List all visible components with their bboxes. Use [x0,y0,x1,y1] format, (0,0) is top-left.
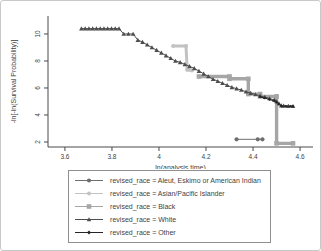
data-marker [150,45,155,49]
data-marker [274,94,279,99]
data-marker [234,137,238,141]
data-marker [168,56,173,60]
data-marker [145,42,150,46]
x-tick-label: 4 [157,153,161,160]
data-marker [164,53,169,57]
x-tick-label: 4.4 [249,153,258,160]
data-marker [173,59,178,63]
y-axis-title: -ln[-ln(Survival Probability)] [10,40,18,124]
legend-label: revised_race = Other [110,229,176,236]
circle-marker-icon [74,176,104,185]
data-marker [171,44,175,48]
x-tick-label: 4.2 [201,153,210,160]
legend-marker [87,192,91,196]
data-marker [184,44,188,48]
legend-item: revised_race = White [74,213,261,226]
data-marker [291,141,296,146]
y-tick-label: 8 [34,59,41,63]
data-marker [256,137,260,141]
x-axis-title: ln(analysis time) [155,164,206,170]
triangle-marker-icon [74,215,104,224]
survival-plot-figure: 3.63.844.24.44.6246810ln(analysis time)-… [0,0,321,251]
x-tick-label: 3.6 [60,153,69,160]
circle-marker-icon [74,189,104,198]
legend-label: revised_race = Aleut, Eskimo or American… [110,177,261,184]
data-marker [185,68,189,72]
legend-item: revised_race = Asian/Pacific Islander [74,187,261,200]
legend-marker [87,178,91,182]
data-marker [260,137,264,141]
legend: revised_race = Aleut, Eskimo or American… [68,170,271,243]
data-marker [197,74,202,79]
legend-label: revised_race = White [110,216,176,223]
y-tick-label: 6 [34,86,41,90]
series-line-2 [199,77,293,144]
x-tick-label: 3.8 [107,153,116,160]
square-marker-icon [74,202,104,211]
data-marker [274,141,279,146]
legend-marker [87,204,92,209]
legend-label: revised_race = Black [110,203,175,210]
data-marker [201,72,206,76]
data-marker [227,76,232,81]
legend-item: revised_race = Other [74,226,261,239]
data-marker [154,48,159,52]
x-tick-label: 4.6 [296,153,305,160]
legend-item: revised_race = Black [74,200,261,213]
diamond-marker-icon [74,228,104,237]
data-marker [197,69,202,73]
y-tick-label: 4 [34,113,41,117]
data-marker [246,76,251,81]
y-tick-label: 10 [34,30,41,38]
y-tick-label: 2 [34,140,41,144]
legend-marker [87,231,91,235]
legend-item: revised_race = Aleut, Eskimo or American… [74,174,261,187]
plot-area: 3.63.844.24.44.6246810ln(analysis time)-… [1,1,321,169]
data-marker [159,51,164,55]
legend-label: revised_race = Asian/Pacific Islander [110,190,225,197]
